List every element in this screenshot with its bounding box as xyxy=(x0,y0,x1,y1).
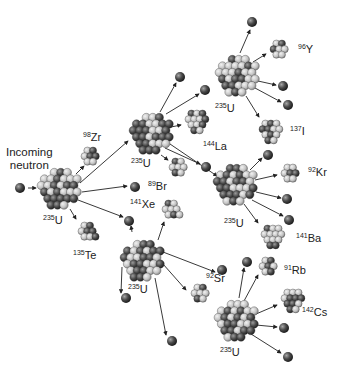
nucleus-zr-98 xyxy=(81,147,99,165)
arrow xyxy=(78,200,123,217)
fission-chain-diagram: Incoming neutron 235U98Zr135Te235U144La8… xyxy=(0,0,343,371)
mass-number: 235 xyxy=(43,214,55,221)
arrow xyxy=(250,158,262,170)
element-symbol: Xe xyxy=(142,198,155,210)
element-symbol: U xyxy=(232,346,240,358)
isotope-label-la-144: 144La xyxy=(203,140,227,152)
arrow xyxy=(244,275,258,301)
element-symbol: U xyxy=(143,157,151,169)
arrow xyxy=(82,186,127,192)
neutron xyxy=(283,100,293,110)
arrow xyxy=(251,334,281,353)
nucleus-u-235 xyxy=(129,113,173,154)
isotope-label-u-235: 235U xyxy=(224,217,244,229)
element-symbol: Ba xyxy=(308,232,321,244)
mass-number: 135 xyxy=(73,249,85,256)
neutron xyxy=(247,17,257,27)
nucleus-ba-141 xyxy=(261,225,285,249)
incoming-neutron xyxy=(15,183,25,193)
neutron xyxy=(263,150,273,160)
isotope-label-i-137: 137I xyxy=(290,125,305,137)
isotope-label-y-96: 96Y xyxy=(298,43,313,55)
element-symbol: Rb xyxy=(292,264,306,276)
element-symbol: Te xyxy=(85,249,97,261)
arrow xyxy=(76,166,84,174)
element-symbol: Y xyxy=(306,43,313,55)
isotope-label-kr-92: 92Kr xyxy=(308,166,327,178)
nucleus-u-235 xyxy=(37,168,81,209)
mass-number: 144 xyxy=(203,140,215,147)
element-symbol: Zr xyxy=(91,131,101,143)
arrow xyxy=(258,81,276,85)
neutron xyxy=(200,85,210,95)
neutron xyxy=(201,162,211,172)
arrow xyxy=(158,222,164,240)
nucleus-u-235 xyxy=(214,300,258,341)
arrow xyxy=(121,267,122,293)
arrow xyxy=(244,204,258,223)
isotope-label-cs-142: 142Cs xyxy=(302,306,327,318)
mass-number: 235 xyxy=(131,157,143,164)
arrow xyxy=(239,268,244,298)
mass-number: 137 xyxy=(290,125,302,132)
isotope-label-ba-141: 141Ba xyxy=(296,232,321,244)
isotope-label-u-235: 235U xyxy=(215,102,235,114)
mass-number: 235 xyxy=(128,283,140,290)
element-symbol: Kr xyxy=(316,166,327,178)
neutron xyxy=(130,182,140,192)
mass-number: 235 xyxy=(215,102,227,109)
arrow xyxy=(255,175,277,180)
arrow xyxy=(240,30,250,53)
isotope-label-zr-98: 98Zr xyxy=(83,131,101,143)
arrow xyxy=(70,209,76,219)
neutron xyxy=(279,323,289,333)
element-symbol: U xyxy=(55,214,63,226)
element-symbol: U xyxy=(140,283,148,295)
isotope-label-u-235: 235U xyxy=(131,157,151,169)
mass-number: 98 xyxy=(83,131,91,138)
isotope-label-sr-92: 92Sr xyxy=(206,272,225,284)
isotope-label-br-89: 89Br xyxy=(148,180,167,192)
arrow xyxy=(253,54,266,62)
arrow xyxy=(246,96,259,117)
nucleus-sr-92 xyxy=(191,284,209,302)
element-symbol: Br xyxy=(156,180,167,192)
arrow xyxy=(256,192,281,198)
arrow xyxy=(155,278,166,335)
nucleus-kr-92 xyxy=(281,164,299,182)
neutron xyxy=(278,81,288,91)
isotope-label-u-235: 235U xyxy=(43,214,63,226)
mass-number: 96 xyxy=(298,43,306,50)
isotope-label-u-235: 235U xyxy=(220,346,240,358)
element-symbol: La xyxy=(215,140,227,152)
neutron xyxy=(167,336,177,346)
arrow xyxy=(160,83,176,112)
isotope-label-xe-141: 141Xe xyxy=(130,198,155,210)
element-symbol: I xyxy=(302,125,305,137)
arrow xyxy=(256,305,277,314)
incoming-neutron-label: Incoming neutron xyxy=(6,146,53,172)
incoming-label-line2: neutron xyxy=(6,159,53,172)
nucleus-u-235 xyxy=(213,164,257,205)
neutron xyxy=(124,216,134,226)
neutron xyxy=(284,215,294,225)
nucleus-u-235 xyxy=(120,240,164,281)
arrow xyxy=(131,226,132,232)
diagram-canvas xyxy=(0,0,343,371)
isotope-label-u-235: 235U xyxy=(128,283,148,295)
arrow xyxy=(252,200,283,216)
element-symbol: Cs xyxy=(314,306,327,318)
mass-number: 92 xyxy=(308,166,316,173)
nucleus-xe-141 xyxy=(162,200,183,218)
arrow xyxy=(163,264,186,290)
neutron xyxy=(283,352,293,362)
mass-number: 235 xyxy=(224,217,236,224)
mass-number: 141 xyxy=(296,232,308,239)
mass-number: 89 xyxy=(148,180,156,187)
element-symbol: Sr xyxy=(214,272,225,284)
neutron xyxy=(242,257,252,267)
arrow xyxy=(161,155,168,160)
element-symbol: U xyxy=(236,217,244,229)
neutron xyxy=(282,194,292,204)
isotope-label-te-135: 135Te xyxy=(73,249,96,261)
